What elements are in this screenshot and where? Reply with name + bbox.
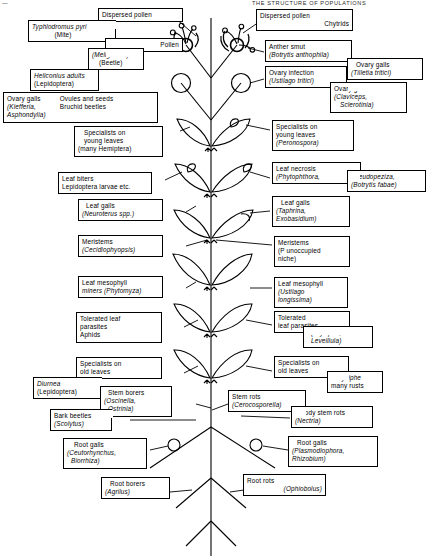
text-line: Meristems	[82, 238, 159, 246]
text-line: (Botrytis anthophila)	[269, 51, 348, 59]
text-line: Leaf galls	[276, 199, 346, 207]
leader-stem-borers	[196, 404, 211, 408]
text-line: Ovary infection	[269, 69, 343, 77]
label-meristems-left: Meristems (Cecidiophyopsis)	[78, 235, 163, 257]
leader-specialists-young-right	[246, 125, 270, 130]
text-line: Leveillula)	[307, 337, 369, 345]
text-line: Specialists on	[80, 360, 158, 368]
text-line: Leaf necrosis	[276, 165, 357, 173]
text-line: (Oscinella,	[104, 397, 168, 405]
text-line: Stem rots	[232, 393, 302, 401]
text-line: young leaves	[78, 137, 159, 145]
text-line: (Claviceps,	[334, 93, 403, 101]
text-line: Woody stem rots	[295, 409, 369, 417]
leader-leaf-necrosis	[250, 172, 270, 178]
notch-cover	[328, 372, 349, 380]
notch-cover	[348, 171, 360, 179]
text-line: (Scolytus)	[54, 420, 108, 428]
text-line: (P unoccupied	[278, 247, 346, 255]
label-specialists-young-leaves-right: Specialists on young leaves (Peronospora…	[272, 120, 354, 151]
text-line: miners (Phytomyza)	[82, 287, 159, 295]
text-line: Root rots	[247, 477, 322, 485]
text-line: (Plasmodiophora,	[292, 447, 374, 455]
label-root-galls-right: Root galls (Plasmodiophora, Rhizobium)	[288, 436, 378, 467]
notch-cover	[120, 331, 161, 340]
notch-cover	[348, 83, 406, 91]
label-dispersed-pollen-right: Dispersed pollen Chytrids	[256, 9, 353, 31]
label-leaf-mesophyll-miners: Leaf mesophyll miners (Phytomyza)	[78, 276, 163, 298]
label-meristems-right: Meristems (P unoccupied niche)	[274, 236, 350, 267]
leader-mesophyll-left	[186, 282, 196, 288]
text-line: Leaf mesophyll	[82, 279, 159, 287]
leader-woody-stem-rots	[241, 416, 290, 418]
leader-tolerated-right	[246, 320, 272, 325]
notch-cover	[292, 407, 306, 415]
leader-leaf-galls-left	[186, 206, 196, 212]
text-line: many rusts	[331, 382, 379, 390]
leader-root-galls-right	[263, 446, 288, 450]
text-line: (Nectria)	[295, 417, 369, 425]
text-line: Heliconius adults	[34, 72, 95, 80]
col-ovules-seeds: Ovules and seeds Bruchid beetles	[60, 95, 114, 120]
text-line: (Ustilago	[278, 288, 344, 296]
text-line: Root galls	[292, 439, 374, 447]
text-line: (Lepidoptera)	[37, 388, 98, 396]
label-root-galls-left: Root galls (Ceutorhynchus, Biorrhiza)	[63, 438, 147, 469]
text-line: (Neuroterus spp.)	[82, 210, 159, 218]
text-line: Asphondylia)	[7, 111, 46, 119]
leader-anther-smut	[248, 48, 264, 52]
col-ovary-galls: Ovary galls (Kiefferia, Asphondylia)	[7, 95, 46, 120]
leader-leaf-galls-right	[250, 211, 270, 213]
leader-tolerated-left	[184, 320, 198, 327]
text-line: (Agrilus)	[105, 488, 166, 496]
label-root-rots: Root rots (Ophiobolus)	[243, 474, 326, 496]
text-line: Stem borers	[104, 389, 168, 397]
figure-root: — THE STRUCTURE OF POPULATIONS	[0, 0, 429, 558]
text-line: Dispersed pollen	[102, 11, 179, 19]
text-line: Sclerotinia)	[334, 101, 403, 109]
text-line: Specialists on	[276, 123, 350, 131]
notch-cover	[99, 21, 116, 29]
label-leaf-galls-left: Leaf galls (Neuroterus spp.)	[78, 199, 163, 221]
text-line: Ovules and seeds	[60, 95, 114, 103]
text-line: Dispersed pollen	[260, 12, 349, 20]
notch-cover	[304, 327, 349, 335]
label-ovary-galls-ovules-seeds: Ovary galls (Kiefferia, Asphondylia) Ovu…	[3, 92, 158, 123]
text-line: (Phytophthora,	[276, 173, 357, 181]
text-line: Leaf galls	[82, 202, 159, 210]
text-line: Meristems	[278, 239, 346, 247]
text-line: Tolerated	[278, 314, 346, 322]
label-leaf-mesophyll-right: Leaf mesophyll (Ustilago longissima)	[274, 277, 348, 308]
leader-old-leaves-right	[246, 366, 272, 371]
leader-root-borers	[170, 490, 192, 492]
label-ovary-galls-tilletia: Ovary galls (Tilletia tritici)	[347, 58, 423, 80]
leader-meristems-left	[186, 240, 207, 246]
text-line: Chytrids	[260, 20, 349, 28]
notch-cover	[77, 378, 102, 386]
text-line: Tolerated leaf	[80, 315, 158, 323]
text-line: Ovary galls	[7, 95, 46, 103]
leader-root-rots	[230, 490, 244, 492]
text-line: (Tilletia tritici)	[351, 69, 419, 77]
text-line: Bruchid beetles	[60, 103, 114, 111]
text-line: Root borers	[105, 480, 166, 488]
text-line: niche)	[278, 255, 346, 263]
notch-cover	[106, 49, 143, 57]
text-line: Root galls	[67, 441, 143, 449]
leader-leaf-biters	[165, 172, 182, 180]
label-anther-smut: Anther smut (Botrytis anthophila)	[265, 40, 352, 62]
text-line: (Taphrina,	[276, 207, 346, 215]
text-line: Leaf biters	[62, 175, 148, 183]
text-line: (many Hemiptera)	[78, 145, 159, 153]
text-line: Rhizobium)	[292, 455, 374, 463]
leader-root-galls-left	[150, 446, 168, 450]
notch-cover	[99, 410, 113, 418]
label-specialists-young-leaves-left: Specialists on young leaves (many Hemipt…	[74, 126, 163, 157]
leader-old-leaves-left	[184, 366, 198, 373]
text-line: Biorrhiza)	[67, 457, 143, 465]
leader-stem-rots	[212, 404, 228, 410]
text-line: Pseudopeziza,	[351, 173, 422, 181]
text-line: (Peronospora)	[276, 139, 350, 147]
text-line: (Lepidoptera)	[34, 80, 95, 88]
text-line: young leaves	[276, 131, 350, 139]
